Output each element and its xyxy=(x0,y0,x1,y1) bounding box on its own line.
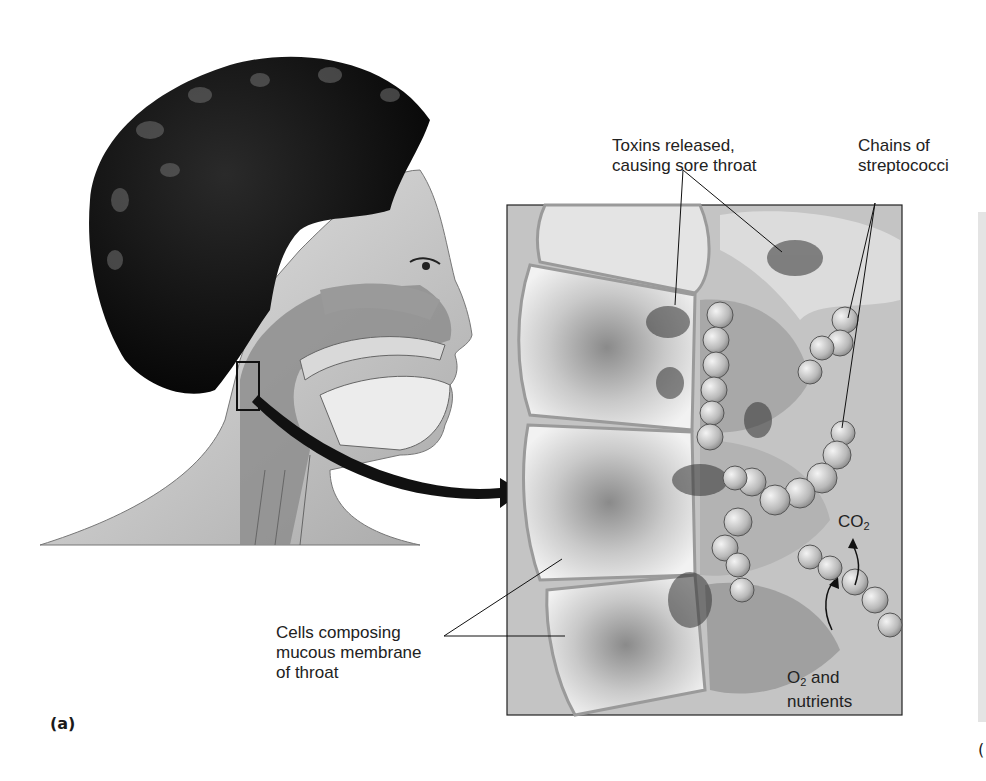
cells-label-line2: mucous membrane xyxy=(276,643,422,663)
panel-label-a: (a) xyxy=(50,714,75,733)
toxins-label: Toxins released, causing sore throat xyxy=(612,136,757,176)
co2-label: CO2 xyxy=(838,512,870,536)
cells-label-line3: of throat xyxy=(276,663,422,683)
next-panel-fragment xyxy=(978,212,986,722)
cells-label-line1: Cells composing xyxy=(276,623,422,643)
head-illustration xyxy=(40,57,472,545)
inset-panel xyxy=(507,205,902,715)
chains-label-line1: Chains of xyxy=(858,136,949,156)
toxins-label-line2: causing sore throat xyxy=(612,156,757,176)
panel-label-next: ( xyxy=(978,740,984,759)
o2-nutrients-label: O2 and nutrients xyxy=(787,668,852,712)
cells-label: Cells composing mucous membrane of throa… xyxy=(276,623,422,683)
toxins-label-line1: Toxins released, xyxy=(612,136,757,156)
chains-label: Chains of streptococci xyxy=(858,136,949,176)
chains-label-line2: streptococci xyxy=(858,156,949,176)
illustration xyxy=(0,0,986,781)
